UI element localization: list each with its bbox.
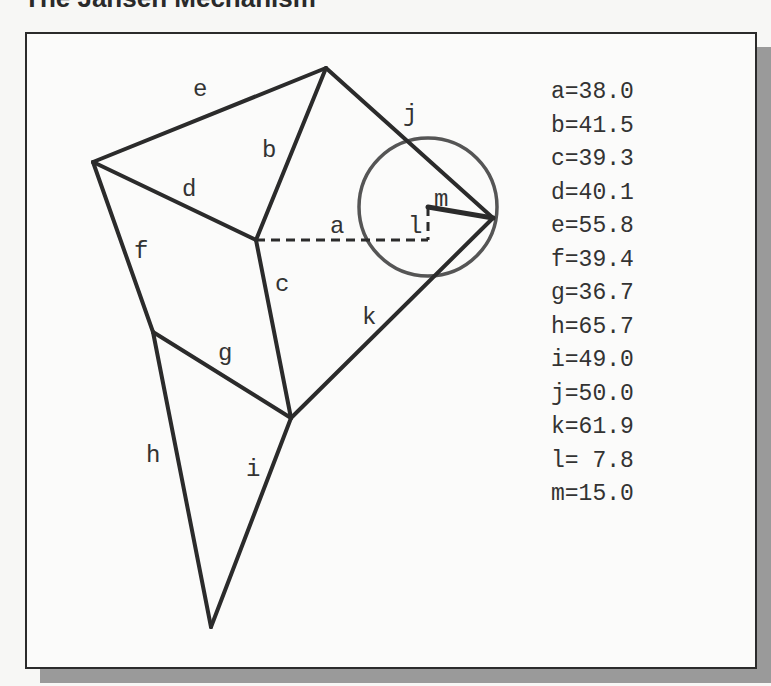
label-m: m <box>434 186 448 213</box>
link-c <box>256 240 291 418</box>
label-l: l <box>408 213 422 240</box>
link-j <box>326 68 493 218</box>
legend-item-d: d=40.1 <box>551 177 634 211</box>
link-e <box>93 68 326 162</box>
legend-item-e: e=55.8 <box>551 210 634 244</box>
legend-item-f: f=39.4 <box>551 244 634 278</box>
legend-item-b: b=41.5 <box>551 110 634 144</box>
legend-item-g: g=36.7 <box>551 277 634 311</box>
label-k: k <box>362 304 376 331</box>
label-a: a <box>330 213 344 240</box>
legend-item-l: l= 7.8 <box>551 445 634 479</box>
link-length-legend: a=38.0 b=41.5 c=39.3 d=40.1 e=55.8 f=39.… <box>551 76 634 512</box>
link-h <box>153 332 211 627</box>
label-d: d <box>182 176 196 203</box>
label-i: i <box>246 456 260 483</box>
label-f: f <box>134 238 148 265</box>
label-e: e <box>193 76 207 103</box>
legend-item-i: i=49.0 <box>551 344 634 378</box>
label-c: c <box>275 271 289 298</box>
legend-item-a: a=38.0 <box>551 76 634 110</box>
label-j: j <box>403 101 417 128</box>
label-b: b <box>262 137 276 164</box>
legend-item-c: c=39.3 <box>551 143 634 177</box>
link-k <box>291 218 493 418</box>
label-h: h <box>146 442 160 469</box>
legend-item-m: m=15.0 <box>551 478 634 512</box>
label-g: g <box>218 340 232 367</box>
link-i <box>211 418 291 627</box>
legend-item-k: k=61.9 <box>551 411 634 445</box>
legend-item-j: j=50.0 <box>551 378 634 412</box>
legend-item-h: h=65.7 <box>551 311 634 345</box>
